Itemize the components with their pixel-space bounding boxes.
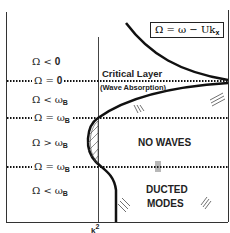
region-label-omega-lt-0: Ω < 0 [32, 56, 60, 67]
region-label-omega-eq-wb-lower: Ω = ωB [32, 161, 72, 173]
modes-label: MODES [147, 198, 184, 209]
wave-absorption-label: (Wave Absorption) [100, 83, 166, 92]
region-label-omega-lt-wb-lower: Ω < ωB [32, 185, 68, 197]
x-axis-label-k2: k2 [91, 223, 99, 233]
region-label-omega-gt-wb: Ω > ωB [32, 137, 68, 149]
formula-text: Ω = ω − Uk [155, 24, 215, 35]
region-label-omega-eq-0: Ω = 0 [32, 75, 64, 86]
no-waves-label: NO WAVES [138, 137, 191, 148]
region-label-omega-eq-wb-upper: Ω = ωB [32, 112, 72, 124]
formula-box: Ω = ω − Ukx [150, 22, 224, 38]
critical-layer-label: Critical Layer [102, 68, 162, 79]
region-label-omega-lt-wb-upper: Ω < ωB [32, 94, 68, 106]
ducted-label: DUCTED [146, 184, 188, 195]
formula-subscript: x [215, 29, 219, 36]
